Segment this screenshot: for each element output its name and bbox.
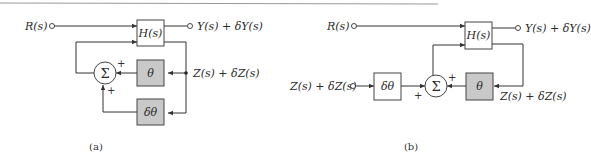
svg-text:θ: θ xyxy=(476,80,483,93)
top-rule xyxy=(0,3,438,4)
sign-left-b: + xyxy=(414,90,422,101)
input-node-a xyxy=(50,24,55,29)
svg-text:H(s): H(s) xyxy=(466,29,491,42)
signal-label-b: Z(s) + δZ(s) xyxy=(499,90,567,103)
output-label-a: Y(s) + δY(s) xyxy=(197,20,263,33)
input-label-b: R(s) xyxy=(326,20,350,33)
svg-text:H(s): H(s) xyxy=(138,27,163,40)
output-label-b: Y(s) + δY(s) xyxy=(525,22,591,35)
output-node-b xyxy=(516,26,521,31)
sign-bottom-a: + xyxy=(107,85,115,96)
perturbation-input-label-b: Z(s) + δZ(s) xyxy=(289,80,357,93)
svg-text:δθ: δθ xyxy=(381,80,395,93)
svg-text:θ: θ xyxy=(147,67,154,80)
output-node-a xyxy=(188,24,193,29)
perturbation-input-node-b xyxy=(351,84,356,89)
caption-a: (a) xyxy=(89,141,103,152)
signal-label-a: Z(s) + δZ(s) xyxy=(192,67,260,80)
diagram-b: R(s) H(s) Y(s) + δY(s) Z(s) + δZ(s) θ Σ … xyxy=(289,20,591,152)
diagram-a: R(s) H(s) Y(s) + δY(s) Z(s) + δZ(s) θ δθ… xyxy=(24,20,263,152)
svg-text:δθ: δθ xyxy=(144,106,158,119)
input-label-a: R(s) xyxy=(24,20,48,33)
svg-text:Σ: Σ xyxy=(100,66,109,81)
input-node-b xyxy=(352,24,357,29)
sign-top-a: + xyxy=(117,58,125,69)
figure: R(s) H(s) Y(s) + δY(s) Z(s) + δZ(s) θ δθ… xyxy=(0,0,591,157)
svg-text:Σ: Σ xyxy=(431,79,440,94)
caption-b: (b) xyxy=(404,141,418,152)
sign-top-b: + xyxy=(448,72,456,83)
